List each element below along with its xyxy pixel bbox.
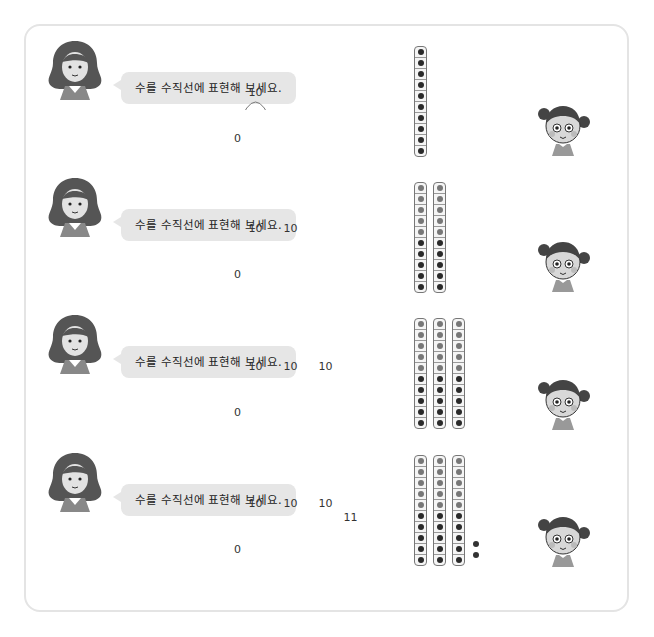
ten-stick <box>414 318 427 429</box>
jump-label: 1 <box>351 511 358 524</box>
ten-stick <box>433 455 446 566</box>
zero-label: 0 <box>234 543 241 556</box>
student-avatar-icon <box>532 370 594 432</box>
teacher-avatar-icon <box>46 450 104 512</box>
ten-stick <box>433 182 446 293</box>
jump-label: 1 <box>344 511 351 524</box>
ten-stick <box>452 455 465 566</box>
speech-bubble: 수를 수직선에 표현해 보세요. <box>121 484 296 516</box>
zero-label: 0 <box>234 268 241 281</box>
jump-label: 10 <box>319 497 333 510</box>
one-unit-dot <box>473 541 479 547</box>
ten-stick <box>414 455 427 566</box>
jump-label: 10 <box>249 222 263 235</box>
jump-label: 10 <box>249 360 263 373</box>
speech-bubble: 수를 수직선에 표현해 보세요. <box>121 209 296 241</box>
jump-label: 10 <box>284 497 298 510</box>
student-avatar-icon <box>532 507 594 569</box>
jump-label: 10 <box>284 360 298 373</box>
speech-bubble: 수를 수직선에 표현해 보세요. <box>121 346 296 378</box>
student-avatar-icon <box>532 232 594 294</box>
ten-stick <box>433 318 446 429</box>
teacher-avatar-icon <box>46 312 104 374</box>
ten-stick <box>452 318 465 429</box>
zero-label: 0 <box>234 132 241 145</box>
one-unit-dot <box>473 552 479 558</box>
ten-stick <box>414 182 427 293</box>
jump-label: 10 <box>249 497 263 510</box>
jump-label: 10 <box>319 360 333 373</box>
teacher-avatar-icon <box>46 175 104 237</box>
jump-label: 10 <box>284 222 298 235</box>
zero-label: 0 <box>234 406 241 419</box>
number-line <box>0 0 654 110</box>
